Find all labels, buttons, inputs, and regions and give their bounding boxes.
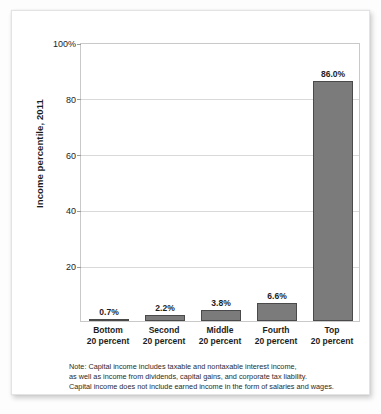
x-axis-label-line2: 20 percent: [136, 336, 192, 347]
figure-card: Income percentile, 2011 20406080100% 0.7…: [11, 10, 370, 395]
bar[interactable]: [257, 303, 297, 321]
bar-value-label: 2.2%: [155, 303, 174, 313]
bar[interactable]: [145, 315, 185, 321]
footnote-line-3: Capital income does not include earned i…: [69, 382, 359, 392]
bar-value-label: 6.6%: [267, 291, 286, 301]
x-axis-labels: Bottom20 percentSecond20 percentMiddle20…: [80, 325, 360, 353]
x-axis-label-line2: 20 percent: [248, 336, 304, 347]
x-axis-label: Top20 percent: [304, 325, 360, 346]
x-axis-label-line2: 20 percent: [304, 336, 360, 347]
bar-value-label: 3.8%: [211, 298, 230, 308]
x-axis-label: Second20 percent: [136, 325, 192, 346]
figure-page: Income percentile, 2011 20406080100% 0.7…: [0, 0, 381, 414]
x-axis-label-line2: 20 percent: [80, 336, 136, 347]
y-tick-label-80: 80: [16, 95, 76, 105]
y-tick-label-40: 40: [16, 206, 76, 216]
footnote-line-2: as well as income from dividends, capita…: [69, 372, 359, 382]
x-axis-label-line1: Bottom: [93, 325, 123, 335]
plot-area: 20406080100% 0.7%2.2%3.8%6.6%86.0%: [80, 43, 360, 322]
y-tick-label-20: 20: [16, 262, 76, 272]
bar-value-label: 86.0%: [321, 69, 345, 79]
x-axis-label: Middle20 percent: [192, 325, 248, 346]
x-axis-label-line1: Top: [325, 325, 340, 335]
bar-series: 0.7%2.2%3.8%6.6%86.0%: [81, 44, 359, 321]
bar-value-label: 0.7%: [99, 307, 118, 317]
bar-group: 2.2%: [137, 44, 193, 321]
chart-footnote: Note: Capital income includes taxable an…: [69, 362, 359, 392]
bar-group: 3.8%: [193, 44, 249, 321]
footnote-line-1: Note: Capital income includes taxable an…: [69, 362, 359, 372]
x-axis-label: Bottom20 percent: [80, 325, 136, 346]
x-axis-label-line1: Second: [149, 325, 180, 335]
x-axis-label-line1: Fourth: [263, 325, 290, 335]
y-tick-label-60: 60: [16, 151, 76, 161]
x-axis-label-line1: Middle: [207, 325, 234, 335]
bar-group: 6.6%: [249, 44, 305, 321]
x-axis-label-line2: 20 percent: [192, 336, 248, 347]
y-tick-label-100: 100%: [16, 39, 76, 49]
bar-group: 86.0%: [305, 44, 361, 321]
bar[interactable]: [201, 310, 241, 321]
bar-group: 0.7%: [81, 44, 137, 321]
bar[interactable]: [313, 81, 353, 321]
bar[interactable]: [89, 319, 129, 321]
x-axis-label: Fourth20 percent: [248, 325, 304, 346]
